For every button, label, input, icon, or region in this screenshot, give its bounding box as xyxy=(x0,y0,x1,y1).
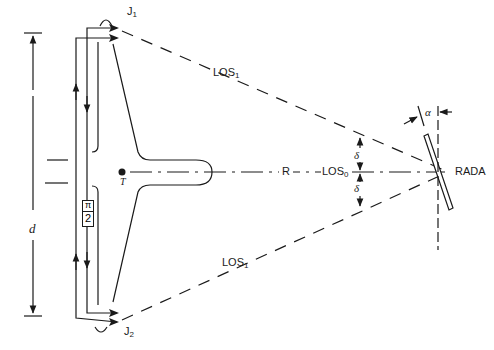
label-los1-top: LOS1 xyxy=(213,67,239,80)
label-alpha: α xyxy=(425,107,431,118)
antenna-arc-bottom xyxy=(95,327,107,332)
jammer-loop-outer xyxy=(76,38,117,322)
label-j2: J2 xyxy=(124,326,134,339)
baseline-dimension-line xyxy=(24,33,42,316)
jammer-loop-inner xyxy=(87,28,117,313)
alpha-arrow-left xyxy=(404,117,417,124)
los1-bottom-line xyxy=(122,173,446,320)
label-los1-bottom: LOS1 xyxy=(222,257,248,270)
label-los0: LOS0 xyxy=(321,166,349,179)
alpha-tilt-line xyxy=(418,106,424,126)
aircraft-outline xyxy=(92,42,212,305)
label-target: T xyxy=(120,177,126,187)
label-delta-bottom: δ xyxy=(354,183,359,194)
label-d: d xyxy=(29,222,36,235)
label-radar: RADA xyxy=(455,166,486,177)
label-range: R xyxy=(279,166,293,177)
label-j1: J1 xyxy=(127,6,137,19)
diagram-canvas xyxy=(0,0,494,350)
target-point xyxy=(119,169,126,176)
phase-shift-denominator: 2 xyxy=(82,211,94,227)
los1-top-line xyxy=(122,31,446,171)
label-delta-top: δ xyxy=(354,150,359,161)
